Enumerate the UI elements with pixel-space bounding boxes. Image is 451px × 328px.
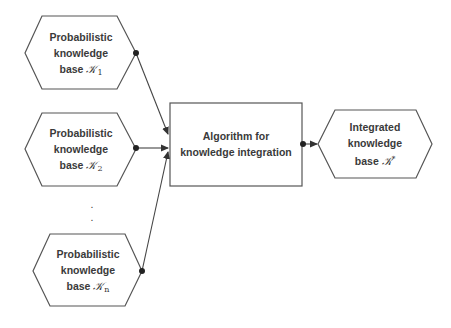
input-label-k2-line3: base 𝒦2	[35, 157, 127, 177]
output-label-line1: Integrated	[330, 119, 420, 135]
ellipsis-dot-2: .	[87, 209, 97, 225]
connector-kn-to-algorithm	[142, 152, 168, 271]
input-label-kn: Probabilistic knowledge base 𝒦n	[42, 246, 134, 298]
output-label-line3: base 𝒦*	[330, 151, 420, 170]
input-label-k2: Probabilistic knowledge base 𝒦2	[35, 125, 127, 177]
connector-k1-to-algorithm	[136, 53, 168, 134]
input-label-kn-line2: knowledge	[42, 262, 134, 278]
knowledge-base-symbol: 𝒦1	[86, 63, 102, 76]
input-label-k1-line1: Probabilistic	[35, 29, 127, 45]
source-dot-kn	[139, 268, 145, 274]
knowledge-base-symbol: 𝒦2	[86, 159, 102, 172]
input-label-kn-line1: Probabilistic	[42, 246, 134, 262]
source-dot-k1	[133, 50, 139, 56]
process-label: Algorithm for knowledge integration	[170, 128, 302, 160]
knowledge-base-symbol: 𝒦n	[93, 280, 109, 293]
output-label: Integrated knowledge base 𝒦*	[330, 119, 420, 170]
input-label-k1: Probabilistic knowledge base 𝒦1	[35, 29, 127, 81]
input-label-kn-line3: base 𝒦n	[42, 278, 134, 298]
integrated-knowledge-base-symbol: 𝒦*	[382, 155, 396, 168]
input-label-k2-line1: Probabilistic	[35, 125, 127, 141]
process-label-line1: Algorithm for	[170, 128, 302, 144]
input-label-k1-line2: knowledge	[35, 45, 127, 61]
process-label-line2: knowledge integration	[170, 144, 302, 160]
input-label-k1-line3: base 𝒦1	[35, 61, 127, 81]
output-label-line2: knowledge	[330, 135, 420, 151]
input-label-k2-line2: knowledge	[35, 141, 127, 157]
source-dot-k2	[133, 145, 139, 151]
